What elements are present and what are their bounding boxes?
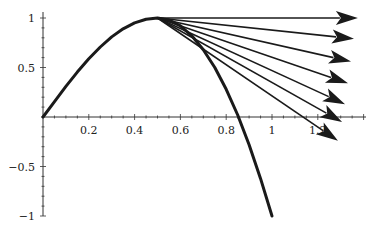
y-tick-label: 1 — [28, 12, 35, 25]
arrowhead-icon — [319, 105, 342, 122]
arrow — [158, 11, 358, 25]
arrowhead-icon — [322, 89, 345, 105]
x-tick-label: 0.2 — [80, 124, 98, 137]
arrow — [158, 18, 338, 141]
x-tick-label: 0.4 — [126, 124, 144, 137]
axes — [41, 12, 366, 216]
y-tick-label: −0.5 — [8, 161, 35, 174]
plot-area: 0.20.40.60.811.210.5−0.5−1 — [0, 0, 381, 233]
arrow — [158, 18, 343, 122]
y-tick-label: 0.5 — [18, 62, 36, 75]
x-tick-label: 0.6 — [172, 124, 190, 137]
x-tick-label: 1 — [269, 124, 276, 137]
y-tick-label: −1 — [19, 210, 35, 223]
x-tick-label: 0.8 — [217, 124, 235, 137]
arrow — [158, 18, 346, 104]
arrow — [158, 18, 352, 64]
